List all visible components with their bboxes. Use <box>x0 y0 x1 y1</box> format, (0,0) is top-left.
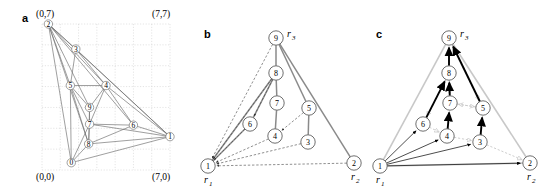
panel_c-node: 2r2 <box>523 156 537 185</box>
node-label: 9 <box>447 34 451 43</box>
node-label: 6 <box>132 121 136 130</box>
node-label: 5 <box>481 104 485 113</box>
root-label-r2: r <box>527 171 531 182</box>
bold-arrow <box>426 82 444 118</box>
bold-arrow <box>453 47 480 102</box>
panel_b-node: 2r2 <box>347 156 361 185</box>
root-label-r1: r <box>204 174 208 185</box>
node-label: 4 <box>273 132 277 141</box>
node-label: 5 <box>68 81 72 90</box>
panel_b-node: 7 <box>270 96 284 110</box>
node-label: 2 <box>528 159 532 168</box>
dashed-arrow <box>217 163 347 166</box>
panel-a-node: 8 <box>84 140 92 149</box>
node-label: 1 <box>378 162 382 171</box>
panel_b-node: 1r1 <box>201 159 215 188</box>
panel-a-node: 5 <box>66 81 74 90</box>
node-label: 6 <box>421 120 425 129</box>
panel_c-node: 3 <box>473 135 487 149</box>
panel_b-node: 3 <box>301 135 315 149</box>
panel-b: b 1r12r23456789r3 <box>196 0 368 194</box>
grid-lines <box>42 24 170 170</box>
panel-a-node: 4 <box>102 81 110 90</box>
node-label: 9 <box>88 103 92 112</box>
panel-a-edge <box>70 86 88 144</box>
panel_c-node: 6 <box>416 117 430 131</box>
panel-a-node: 2 <box>44 20 52 29</box>
bold-arrow <box>387 163 520 166</box>
root-label-r1: r <box>376 174 380 185</box>
dashed-arrow <box>213 79 272 159</box>
panel_c-node: 1r1 <box>373 159 387 188</box>
dashed-arrow <box>216 144 301 164</box>
panel_c-node: 8 <box>442 66 456 80</box>
panel-b-canvas: 1r12r23456789r3 <box>196 0 368 194</box>
outline-edge <box>453 44 526 157</box>
panel-a-node: 6 <box>129 121 137 130</box>
root-label-r1-sub: 1 <box>209 180 213 188</box>
gray-arrow <box>454 137 471 140</box>
tree-edge <box>308 115 309 135</box>
panel-a-edge <box>133 125 170 136</box>
node-label: 0 <box>69 158 73 167</box>
node-label: 1 <box>206 162 210 171</box>
panel_c-node: 4 <box>440 129 454 143</box>
node-label: 3 <box>306 138 310 147</box>
panel-a-edge <box>106 86 170 137</box>
panel-a-node: 1 <box>166 132 174 141</box>
root-label-r3-sub: 3 <box>291 34 296 42</box>
panel_b-node: 6 <box>243 117 257 131</box>
panel-a-edge <box>70 49 75 86</box>
tree-edge <box>275 110 276 129</box>
node-label: 7 <box>275 99 279 108</box>
gray-arrow <box>429 127 438 132</box>
panel-a: a (0,7) (7,7) (0,0) (7,0) 0123456789 <box>0 0 196 194</box>
panel_b-node: 8 <box>269 66 283 80</box>
node-label: 4 <box>104 81 108 90</box>
node-label: 3 <box>478 138 482 147</box>
panel-c-canvas: 1r12r23456789r3 <box>368 0 550 194</box>
root-label-r2-sub: 2 <box>532 177 536 185</box>
node-label: 5 <box>307 104 311 113</box>
panel_c-node: 5 <box>476 101 490 115</box>
node-label: 1 <box>168 132 172 141</box>
root-label-r2-sub: 2 <box>356 177 360 185</box>
panel_c-node: 9r3 <box>442 28 469 45</box>
node-label: 2 <box>47 20 51 29</box>
tree-edge <box>276 80 277 96</box>
panel-a-node: 7 <box>85 120 93 129</box>
panel-a-edge <box>89 137 170 144</box>
gray-arrow <box>487 145 522 160</box>
panel-a-node: 9 <box>85 103 93 112</box>
node-label: 4 <box>445 132 449 141</box>
panel_b-node: 9r3 <box>269 28 296 45</box>
panel_c-node: 7 <box>443 96 457 110</box>
node-label: 8 <box>274 69 278 78</box>
node-label: 9 <box>274 34 278 43</box>
panel-a-edge <box>70 86 71 163</box>
dashed-arrow <box>282 113 304 131</box>
node-label: 7 <box>88 120 92 129</box>
root-label-r1-sub: 1 <box>381 180 385 188</box>
bold-arrow <box>481 118 483 135</box>
panel-c: c 1r12r23456789r3 <box>368 0 550 194</box>
node-label: 3 <box>74 45 78 54</box>
node-label: 7 <box>448 99 452 108</box>
root-label-r3: r <box>287 28 291 39</box>
bold-arrow <box>387 140 439 163</box>
root-label-r2: r <box>351 171 355 182</box>
panel-a-edge <box>89 125 134 144</box>
bold-arrow <box>448 113 449 129</box>
node-label: 8 <box>87 140 91 149</box>
outline-edge <box>383 44 445 159</box>
root-label-r3: r <box>460 28 464 39</box>
panel_b-node: 5 <box>302 101 316 115</box>
panel-a-canvas: 0123456789 <box>0 0 196 194</box>
panel-a-edge <box>76 49 106 86</box>
panel_b-node: 4 <box>268 129 282 143</box>
node-label: 8 <box>447 69 451 78</box>
panel-a-node: 3 <box>72 45 80 54</box>
panel-a-node: 0 <box>67 158 75 167</box>
figure-root: a (0,7) (7,7) (0,0) (7,0) 0123456789 b 1… <box>0 0 550 194</box>
panel_b-nodes: 1r12r23456789r3 <box>201 28 361 188</box>
